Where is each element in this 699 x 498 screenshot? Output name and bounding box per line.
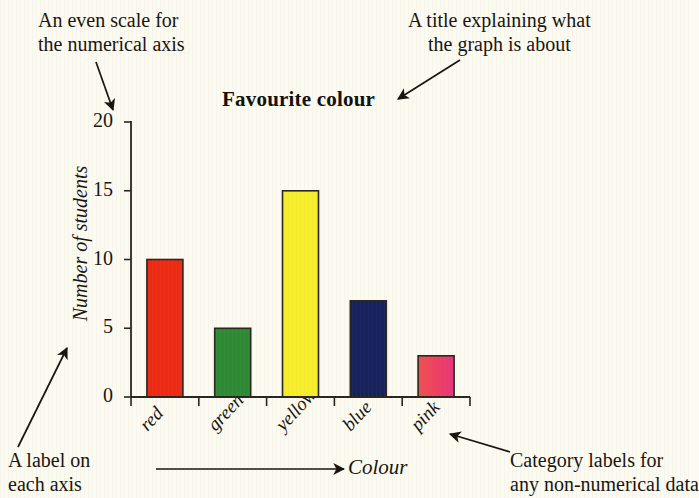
bar-blue (350, 301, 386, 397)
bar-green (215, 328, 251, 397)
bars-group (147, 191, 454, 397)
bar-red (147, 260, 183, 398)
bar-yellow (283, 191, 319, 397)
bar-pink (418, 356, 454, 397)
